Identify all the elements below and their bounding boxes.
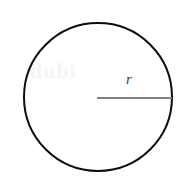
radius-label: r: [126, 72, 132, 87]
diagram-svg: [0, 0, 188, 194]
circle-radius-figure: dubi r: [0, 0, 188, 194]
